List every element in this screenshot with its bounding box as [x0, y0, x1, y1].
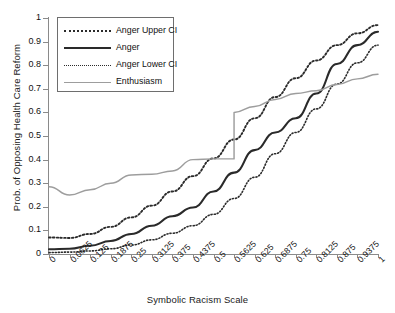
y-axis-tick [43, 112, 48, 113]
y-axis-tick-label: 0.4 [1, 155, 41, 164]
legend-label: Enthusiasm [116, 76, 162, 87]
legend-label: Anger Lower CI [116, 59, 177, 70]
y-axis-tick [43, 136, 48, 137]
y-axis-tick-label: 0.3 [1, 178, 41, 187]
legend-swatch [64, 47, 111, 52]
y-axis-tick-label: 0.7 [1, 84, 41, 93]
chart-figure: Prob. of Opposing Health Care Reform Sym… [0, 0, 395, 313]
y-axis-tick [43, 42, 48, 43]
y-axis-tick-label: 0.6 [1, 107, 41, 116]
y-axis-tick [43, 160, 48, 161]
y-axis-tick-label: 1 [1, 13, 41, 22]
y-axis-tick-label: 0.8 [1, 60, 41, 69]
y-axis-tick [43, 18, 48, 19]
legend-swatch [64, 30, 111, 35]
y-axis-tick [43, 254, 48, 255]
legend-swatch [64, 82, 111, 86]
y-axis-tick [43, 183, 48, 184]
legend-swatch [64, 65, 111, 69]
y-axis-tick-label: 0.1 [1, 225, 41, 234]
y-axis-tick [43, 89, 48, 90]
y-axis-tick [43, 230, 48, 231]
y-axis-tick-label: 0 [1, 249, 41, 258]
y-axis-tick-label: 0.9 [1, 37, 41, 46]
legend: Anger Upper CIAngerAnger Lower CIEnthusi… [57, 17, 174, 92]
y-axis-tick [43, 207, 48, 208]
legend-item: Anger Upper CI [58, 22, 175, 40]
legend-item: Anger Lower CI [58, 56, 175, 74]
y-axis-tick-labels: 00.10.20.30.40.50.60.70.80.91 [0, 0, 41, 313]
y-axis-tick-label: 0.2 [1, 202, 41, 211]
x-axis-title: Symbolic Racism Scale [0, 294, 395, 305]
legend-item: Enthusiasm [58, 73, 175, 91]
legend-label: Anger [116, 42, 139, 53]
x-axis-tick-label: 1 [377, 255, 387, 265]
x-axis-tick-label: 0 [48, 255, 58, 265]
legend-item: Anger [58, 39, 175, 57]
legend-label: Anger Upper CI [116, 25, 177, 36]
y-axis-tick [43, 65, 48, 66]
y-axis-tick-label: 0.5 [1, 131, 41, 140]
